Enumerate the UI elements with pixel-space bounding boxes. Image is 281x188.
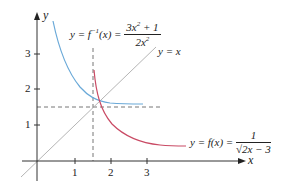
y-tick-2: 2 — [25, 83, 31, 94]
y-tick-3: 3 — [25, 48, 31, 59]
x-tick-3: 3 — [144, 167, 150, 178]
function-label: y = f(x) = 1 √2x − 3 — [190, 130, 271, 155]
x-axis-arrow-icon — [238, 158, 246, 164]
x-tick-1: 1 — [72, 167, 78, 178]
identity-line — [21, 47, 156, 177]
y-axis-arrow-icon — [34, 12, 40, 20]
identity-label: y = x — [158, 46, 181, 57]
x-axis-label: x — [248, 154, 253, 166]
y-tick-1: 1 — [25, 119, 31, 130]
inverse-function-label: y = f−1(x) = 3x2 + 1 2x2 — [70, 21, 161, 47]
function-curve — [94, 70, 186, 146]
y-axis-label: y — [43, 9, 48, 21]
x-tick-2: 2 — [108, 167, 114, 178]
